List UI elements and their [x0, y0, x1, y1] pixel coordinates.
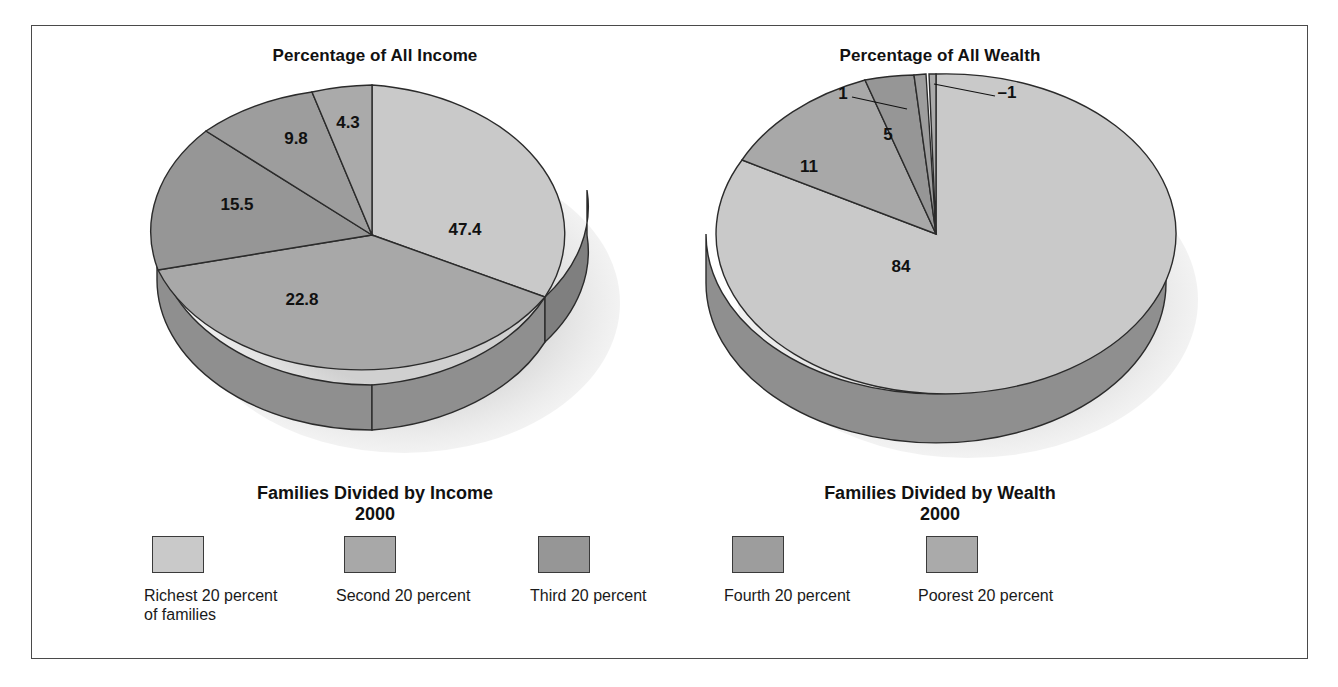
legend-swatch-poorest — [926, 536, 978, 573]
wealth-section-title: Families Divided by Wealth 2000 — [705, 483, 1175, 525]
legend-item-second: Second 20 percent — [336, 536, 536, 605]
legend-item-fourth: Fourth 20 percent — [724, 536, 924, 605]
income-chart-title: Percentage of All Income — [180, 46, 570, 66]
wealth-label-second: 11 — [800, 157, 818, 176]
wealth-pie-chart: 84 11 5 1 –1 — [0, 0, 1338, 520]
legend-label-fourth: Fourth 20 percent — [724, 586, 924, 605]
legend-item-poorest: Poorest 20 percent — [918, 536, 1118, 605]
income-section-heading: Families Divided by Income — [257, 483, 493, 503]
legend-swatch-third — [538, 536, 590, 573]
legend-label-third: Third 20 percent — [530, 586, 730, 605]
legend-item-richest: Richest 20 percent of families — [144, 536, 344, 624]
legend: Richest 20 percent of families Second 20… — [0, 536, 1338, 656]
wealth-label-fourth: 1 — [838, 84, 847, 103]
legend-swatch-fourth — [732, 536, 784, 573]
wealth-label-richest: 84 — [892, 257, 911, 276]
income-section-title: Families Divided by Income 2000 — [145, 483, 605, 525]
legend-label-richest: Richest 20 percent of families — [144, 586, 344, 624]
wealth-section-year: 2000 — [705, 504, 1175, 525]
wealth-chart-title: Percentage of All Wealth — [740, 46, 1140, 66]
wealth-section-heading: Families Divided by Wealth — [824, 483, 1056, 503]
legend-label-second: Second 20 percent — [336, 586, 536, 605]
legend-item-third: Third 20 percent — [530, 536, 730, 605]
income-section-year: 2000 — [145, 504, 605, 525]
legend-swatch-richest — [152, 536, 204, 573]
legend-label-poorest: Poorest 20 percent — [918, 586, 1118, 605]
wealth-label-third: 5 — [883, 125, 892, 144]
legend-swatch-second — [344, 536, 396, 573]
wealth-label-poorest: –1 — [998, 83, 1017, 102]
